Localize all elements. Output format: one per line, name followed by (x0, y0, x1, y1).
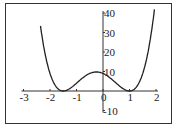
x-tick-label: -3 (20, 91, 30, 103)
y-tick-label: 10 (104, 66, 116, 78)
curve-line (41, 9, 155, 91)
x-tick-label: 1 (128, 91, 134, 103)
y-tick-label: 20 (104, 46, 116, 58)
y-tick-label: -10 (103, 105, 118, 117)
x-tick-label: 2 (154, 91, 160, 103)
y-tick-label: 30 (104, 27, 116, 39)
x-tick-label: 0 (101, 91, 107, 103)
x-tick-label: -1 (73, 91, 82, 103)
line-chart: -3-2-101240302010-10 (0, 0, 177, 129)
y-tick-label: 40 (104, 7, 116, 19)
axes (22, 11, 159, 112)
tick-labels: -3-2-101240302010-10 (20, 7, 160, 117)
x-tick-label: -2 (46, 91, 55, 103)
